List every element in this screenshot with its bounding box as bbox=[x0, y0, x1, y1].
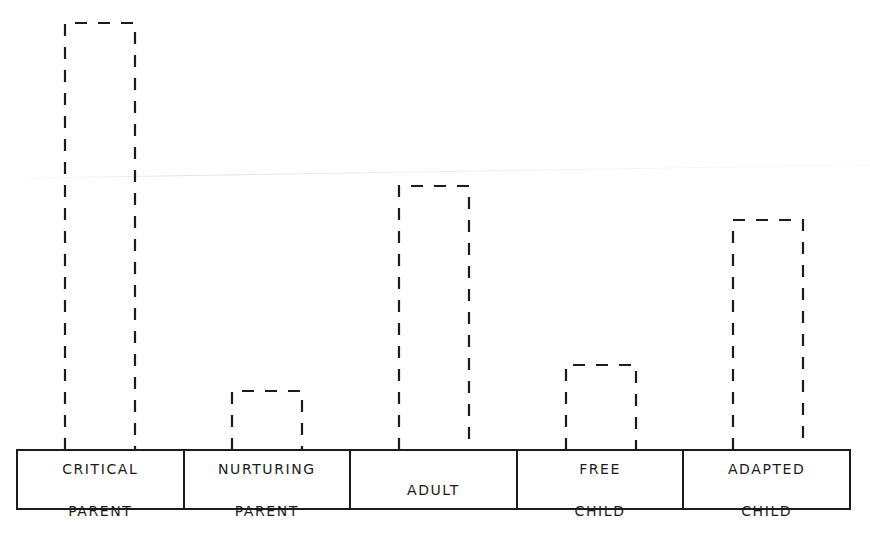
axis-label-line1: FREE bbox=[579, 461, 621, 477]
dashed-bar-outline bbox=[732, 219, 807, 452]
category-axis: CRITICAL PARENT NURTURING PARENT ADULT F… bbox=[16, 449, 851, 510]
axis-label-critical-parent: CRITICAL PARENT bbox=[62, 438, 138, 522]
axis-label-line2: CHILD bbox=[741, 503, 792, 519]
axis-label-free-child: FREE CHILD bbox=[575, 438, 626, 522]
axis-label-line2: PARENT bbox=[235, 503, 299, 519]
axis-cell-adult: ADULT bbox=[351, 451, 518, 508]
axis-label-nurturing-parent: NURTURING PARENT bbox=[218, 438, 316, 522]
axis-label-line1: ADULT bbox=[407, 482, 460, 498]
axis-label-line2: PARENT bbox=[68, 503, 132, 519]
bar-critical-parent bbox=[64, 22, 135, 450]
axis-cell-free-child: FREE CHILD bbox=[518, 451, 685, 508]
dashed-bar-outline bbox=[398, 185, 473, 452]
axis-label-adapted-child: ADAPTED CHILD bbox=[728, 438, 806, 522]
axis-cell-nurturing-parent: NURTURING PARENT bbox=[185, 451, 352, 508]
egogram-bar-chart: CRITICAL PARENT NURTURING PARENT ADULT F… bbox=[0, 0, 870, 535]
axis-label-line1: ADAPTED bbox=[728, 461, 806, 477]
dashed-bar-outline bbox=[64, 22, 139, 452]
bar-adult bbox=[398, 185, 469, 450]
axis-label-line1: CRITICAL bbox=[62, 461, 138, 477]
bar-adapted-child bbox=[732, 219, 803, 450]
axis-label-line1: NURTURING bbox=[218, 461, 316, 477]
axis-cell-adapted-child: ADAPTED CHILD bbox=[684, 451, 849, 508]
axis-cell-critical-parent: CRITICAL PARENT bbox=[18, 451, 185, 508]
axis-label-line2: CHILD bbox=[575, 503, 626, 519]
axis-label-adult: ADULT bbox=[407, 459, 460, 501]
